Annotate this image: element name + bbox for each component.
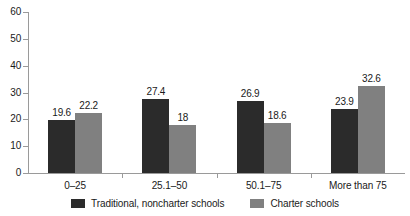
bar[interactable]	[75, 12, 102, 173]
x-axis-tick	[217, 173, 218, 178]
legend-label-traditional: Traditional, noncharter schools	[91, 198, 224, 209]
bar-value-label: 18	[163, 112, 203, 123]
bar-value-label: 18.6	[257, 110, 297, 121]
bar[interactable]	[331, 12, 358, 173]
bar[interactable]	[48, 12, 75, 173]
legend-item-traditional[interactable]: Traditional, noncharter schools	[71, 198, 224, 209]
bar-rect	[358, 86, 385, 173]
dark-square-swatch-icon	[71, 199, 85, 208]
bar-rect	[75, 113, 102, 173]
bar[interactable]	[264, 12, 291, 173]
chart-legend: Traditional, noncharter schools Charter …	[0, 198, 410, 209]
y-axis-tick	[23, 173, 28, 174]
legend-item-charter[interactable]: Charter schools	[250, 198, 339, 209]
bar-rect	[142, 99, 169, 173]
bar-rect	[264, 123, 291, 173]
bar-rect	[169, 125, 196, 173]
bars-layer: 19.622.227.41826.918.623.932.6	[0, 12, 410, 173]
x-axis-category-label: More than 75	[298, 180, 410, 191]
bar[interactable]	[169, 12, 196, 173]
bar-value-label: 32.6	[351, 73, 391, 84]
grouped-bar-chart: 0102030405060 19.622.227.41826.918.623.9…	[0, 0, 410, 216]
bar[interactable]	[358, 12, 385, 173]
x-axis-tick	[311, 173, 312, 178]
bar-rect	[331, 109, 358, 173]
bar-value-label: 22.2	[69, 100, 109, 111]
gray-square-swatch-icon	[250, 199, 264, 208]
legend-label-charter: Charter schools	[270, 198, 339, 209]
x-axis-tick	[122, 173, 123, 178]
bar-rect	[48, 120, 75, 173]
